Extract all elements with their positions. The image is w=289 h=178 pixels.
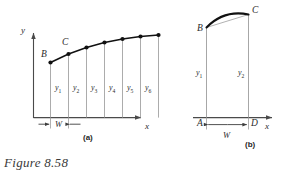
panel-a-x-axis-label: x: [145, 122, 149, 131]
ordinate-label-y4: y4: [109, 84, 115, 94]
panel-b-point-c-label: C: [252, 6, 258, 16]
data-point: [84, 45, 88, 49]
data-point: [102, 40, 106, 44]
data-point: [120, 37, 124, 41]
panel-b-point-a-label: A: [197, 119, 203, 129]
figure-caption: Figure 8.58: [4, 155, 68, 171]
ordinate-label-y5: y5: [127, 84, 133, 94]
panel-b-width-dimension: [207, 118, 249, 130]
panel-a-width-label: W: [55, 120, 62, 129]
panel-b-ordinate-label-y2: y2: [238, 69, 244, 79]
data-point: [48, 60, 52, 64]
panel-b-ordinate-label-y1: y1: [196, 69, 202, 79]
panel-b-width-label: W: [223, 131, 230, 140]
panel-b-tag: (b): [245, 141, 255, 149]
ordinate-label-y1: y1: [55, 84, 61, 94]
panel-a-point-c-label: C: [62, 38, 68, 48]
data-point: [138, 34, 142, 38]
ordinate-label-y6: y6: [145, 84, 151, 94]
panel-a-point-b-label: B: [41, 50, 47, 60]
panel-a-y-axis-label: y: [21, 26, 25, 35]
data-point: [66, 52, 70, 56]
panel-a-tag: (a): [83, 134, 93, 142]
figure-8-58: y x B C y1 y2 y3 y4 y5 y6 W (a) B C A D …: [0, 0, 289, 178]
data-point: [156, 33, 160, 37]
panel-b-point-b-label: B: [197, 24, 203, 34]
panel-a-drawing: [34, 33, 161, 129]
panel-b-drawing: [193, 13, 272, 129]
ordinate-label-y3: y3: [91, 84, 97, 94]
panel-b-point-d-label: D: [251, 119, 258, 129]
ordinate-label-y2: y2: [73, 84, 79, 94]
panel-b-x-axis-label: x: [265, 122, 269, 131]
